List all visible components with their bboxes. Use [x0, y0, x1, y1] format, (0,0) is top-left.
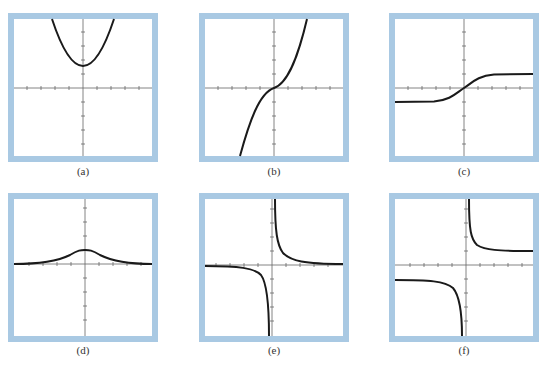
- graph-a-plot: [8, 13, 158, 162]
- caption-d: (d): [8, 344, 158, 356]
- graph-e-plot: [199, 193, 349, 342]
- graph-b-plot: [199, 13, 349, 162]
- caption-f: (f): [389, 344, 539, 356]
- graph-panel-b: [199, 13, 349, 162]
- graph-panel-e: [199, 193, 349, 342]
- graph-c-plot: [389, 13, 539, 162]
- caption-e: (e): [199, 344, 349, 356]
- graph-panel-a: [8, 13, 158, 162]
- graph-panel-f: [389, 193, 539, 342]
- caption-a: (a): [8, 165, 158, 177]
- caption-c: (c): [389, 165, 539, 177]
- graph-f-plot: [389, 193, 539, 342]
- graph-d-plot: [8, 193, 158, 342]
- graph-panel-c: [389, 13, 539, 162]
- graph-panel-d: [8, 193, 158, 342]
- caption-b: (b): [199, 165, 349, 177]
